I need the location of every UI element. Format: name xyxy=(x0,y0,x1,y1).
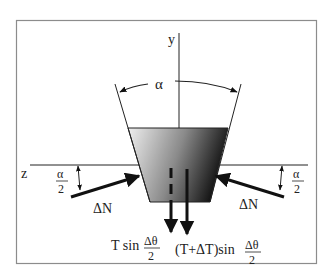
normal-force-right-label: ΔN xyxy=(239,197,258,212)
z-axis-label: z xyxy=(21,166,27,181)
tension-left-dtheta-denominator: 2 xyxy=(148,249,154,263)
half-alpha-left-denominator: 2 xyxy=(58,182,64,196)
v-belt-force-diagram: y z α α 2 α 2 ΔN ΔN T sin Δθ 2 (T+ΔT)sin… xyxy=(0,0,332,279)
tension-left-dtheta-numerator: Δθ xyxy=(144,234,158,248)
normal-force-left-label: ΔN xyxy=(93,201,112,216)
half-alpha-right-numerator: α xyxy=(293,167,300,181)
tension-right-label: (T+ΔT)sin xyxy=(175,242,235,258)
half-alpha-left-numerator: α xyxy=(57,167,64,181)
tension-right-dtheta-denominator: 2 xyxy=(249,253,255,267)
tension-right-dtheta-numerator: Δθ xyxy=(245,238,259,252)
half-alpha-right-denominator: 2 xyxy=(294,182,300,196)
alpha-label: α xyxy=(155,76,163,92)
tension-left-label: T sin xyxy=(111,238,139,253)
y-axis-label: y xyxy=(168,32,175,47)
